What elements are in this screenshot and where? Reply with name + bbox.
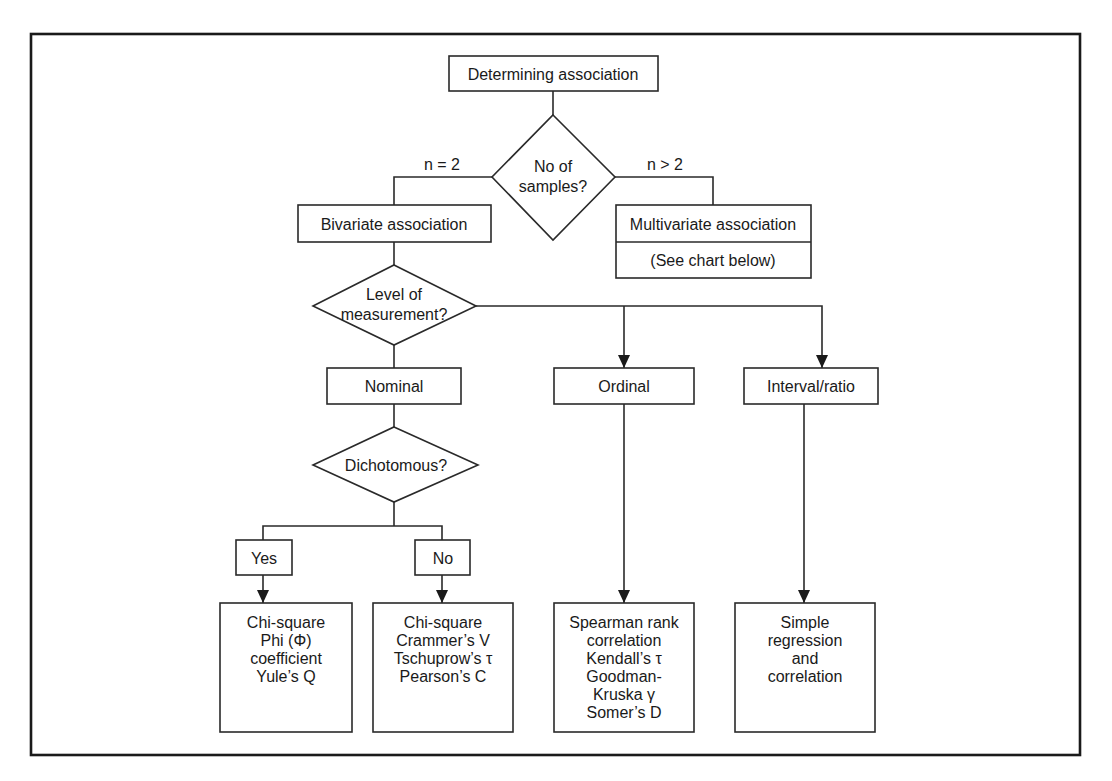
node-no: No [415,540,470,575]
node-label: Interval/ratio [767,378,855,395]
decision-label-line: samples? [519,178,588,195]
result-line: Kruska γ [593,686,655,703]
result-no-tests: Chi-square Crammer’s V Tschuprow’s τ Pea… [373,603,513,732]
decision-label-line: measurement? [341,306,448,323]
result-line: Chi-square [247,614,325,631]
result-line: correlation [587,632,662,649]
decision-dichotomous: Dichotomous? [313,427,478,502]
node-multivariate-association: Multivariate association (See chart belo… [616,205,811,278]
result-line: correlation [768,668,843,685]
result-line: Goodman- [586,668,662,685]
association-flowchart: Determining association No of samples? n… [0,0,1112,781]
node-determining-association: Determining association [449,56,658,91]
node-note: (See chart below) [650,252,775,269]
node-label: Yes [251,550,277,567]
node-yes: Yes [236,540,292,575]
result-line: Simple [781,614,830,631]
node-label: Determining association [468,66,639,83]
node-interval-ratio: Interval/ratio [744,368,878,404]
result-line: Somer’s D [587,704,662,721]
node-label: No [433,550,454,567]
result-line: and [792,650,819,667]
decision-label-line: No of [534,158,573,175]
result-ordinal-tests: Spearman rank correlation Kendall’s τ Go… [554,603,694,732]
decision-label: Dichotomous? [345,457,447,474]
decision-label-line: Level of [366,286,423,303]
node-label: Ordinal [598,378,650,395]
node-nominal: Nominal [327,368,461,404]
node-label: Multivariate association [630,216,796,233]
result-yes-tests: Chi-square Phi (Φ) coefficient Yule’s Q [220,603,352,732]
branch-label-n-greater-2: n > 2 [647,156,683,173]
node-label: Bivariate association [321,216,468,233]
result-line: Chi-square [404,614,482,631]
result-interval-tests: Simple regression and correlation [735,603,875,732]
result-line: Tschuprow’s τ [394,650,493,667]
result-line: Kendall’s τ [586,650,662,667]
result-line: Pearson’s C [400,668,487,685]
node-bivariate-association: Bivariate association [298,205,491,242]
branch-label-n-equals-2: n = 2 [424,156,460,173]
result-line: Yule’s Q [256,668,315,685]
result-line: regression [768,632,843,649]
result-line: Crammer’s V [396,632,490,649]
decision-level-of-measurement: Level of measurement? [313,265,476,345]
node-ordinal: Ordinal [554,368,694,404]
decision-no-of-samples: No of samples? [492,115,615,240]
node-label: Nominal [365,378,424,395]
result-line: Spearman rank [569,614,679,631]
result-line: Phi (Φ) [261,632,312,649]
result-line: coefficient [250,650,322,667]
